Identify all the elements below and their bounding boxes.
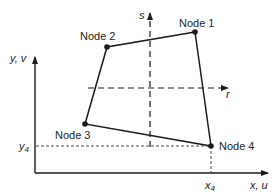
x-axis-label: x, u [249,179,268,191]
node-4-point [208,143,214,149]
node-4-label: Node 4 [219,140,254,152]
quadrilateral-element [85,32,211,146]
r-axis-label: r [226,88,231,100]
element-diagram: Node 1 Node 2 Node 3 Node 4 y, v x, u s … [0,0,278,195]
node-3-point [82,121,88,127]
node-1-label: Node 1 [179,17,214,29]
node-3-label: Node 3 [55,129,90,141]
node-2-label: Node 2 [80,30,115,42]
y-axis-label: y, v [9,52,28,64]
global-axes [35,57,268,173]
node-1-point [192,29,198,35]
node-2-point [104,44,110,50]
x4-label: x4 [204,179,216,193]
y4-label: y4 [18,140,30,154]
s-axis-label: s [139,9,145,21]
